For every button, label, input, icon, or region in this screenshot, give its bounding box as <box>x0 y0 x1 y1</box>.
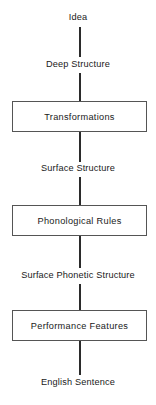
connector-transformations-to-surface-structure <box>79 132 81 162</box>
node-english-sentence: English Sentence <box>0 377 156 388</box>
connector-idea-to-deep-structure <box>79 27 81 57</box>
node-performance-features-label: Performance Features <box>31 321 128 331</box>
node-performance-features: Performance Features <box>12 310 147 341</box>
node-transformations-label: Transformations <box>44 112 115 122</box>
connector-performance-features-to-english-sentence <box>79 341 81 375</box>
connector-surface-structure-to-phonological-rules <box>79 177 81 205</box>
node-transformations: Transformations <box>12 101 147 132</box>
connector-phonological-rules-to-surface-phonetic <box>79 236 81 268</box>
flow-diagram: Idea Deep Structure Transformations Surf… <box>0 0 156 405</box>
node-surface-structure: Surface Structure <box>0 163 156 174</box>
node-deep-structure: Deep Structure <box>0 59 156 70</box>
connector-deep-structure-to-transformations <box>79 73 81 101</box>
node-phonological-rules: Phonological Rules <box>12 205 147 236</box>
connector-surface-phonetic-to-performance-features <box>79 284 81 310</box>
node-surface-phonetic-structure: Surface Phonetic Structure <box>0 270 156 281</box>
node-phonological-rules-label: Phonological Rules <box>37 216 121 226</box>
node-idea: Idea <box>0 12 156 23</box>
